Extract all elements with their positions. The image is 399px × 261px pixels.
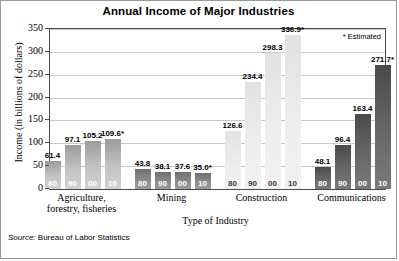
bar-fill — [265, 53, 281, 189]
bar-year-label: 00 — [355, 179, 371, 188]
bar: 97.190 — [65, 145, 81, 189]
bar-year-label: 10 — [105, 179, 121, 188]
y-axis-tick-mark — [45, 165, 49, 166]
x-axis-group-label: Communications — [292, 192, 399, 203]
bar-value-label: 163.4 — [352, 104, 372, 113]
gridline — [50, 29, 385, 30]
bar-value-label: 38.1 — [155, 162, 171, 171]
y-axis-tick-label: 100 — [1, 136, 43, 147]
y-axis-tick-mark — [45, 97, 49, 98]
bar: 126.680 — [225, 131, 241, 189]
bar-year-label: 10 — [375, 179, 391, 188]
bar: 37.600 — [175, 172, 191, 189]
bar-year-label: 10 — [195, 179, 211, 188]
y-axis-tick-mark — [45, 28, 49, 29]
y-axis-tick-mark — [45, 51, 49, 52]
bar: 38.190 — [155, 172, 171, 189]
bar-value-label: 35.0* — [193, 163, 212, 172]
gridline — [50, 98, 385, 99]
y-axis-tick-label: 150 — [1, 113, 43, 124]
group-label-line: Communications — [292, 192, 399, 203]
bar-value-label: 105.2 — [82, 131, 102, 140]
bar-value-label: 96.4 — [335, 135, 351, 144]
bar-year-label: 80 — [315, 179, 331, 188]
bar-fill — [375, 65, 391, 189]
y-axis-tick-label: 50 — [1, 159, 43, 170]
bar-year-label: 00 — [85, 179, 101, 188]
bar-year-label: 90 — [335, 179, 351, 188]
bar-fill — [285, 35, 301, 189]
bar-value-label: 298.3 — [262, 43, 282, 52]
bar: 43.880 — [135, 169, 151, 189]
chart-figure: Annual Income of Major Industries Income… — [0, 0, 397, 259]
y-axis-tick-label: 350 — [1, 22, 43, 33]
y-axis-tick-mark — [45, 188, 49, 189]
bar: 234.490 — [245, 82, 261, 189]
gridline — [50, 120, 385, 121]
bar-value-label: 126.6 — [222, 121, 242, 130]
bar: 48.180 — [315, 167, 331, 189]
y-axis-tick-mark — [45, 142, 49, 143]
plot-area: 61.48097.190105.200109.6*1043.88038.1903… — [49, 28, 386, 190]
bar-fill — [245, 82, 261, 189]
bar-year-label: 80 — [45, 179, 61, 188]
bar: 105.200 — [85, 141, 101, 189]
bar: 109.6*10 — [105, 139, 121, 189]
bar: 35.0*10 — [195, 173, 211, 189]
bar: 163.400 — [355, 114, 371, 189]
bar-value-label: 271.7* — [371, 55, 394, 64]
gridline — [50, 52, 385, 53]
source-text: Bureau of Labor Statistics — [38, 233, 130, 242]
source-label: Source: — [8, 233, 36, 242]
bar-value-label: 37.6 — [175, 162, 191, 171]
group-label-line: forestry, fisheries — [22, 203, 142, 214]
bar: 96.490 — [335, 145, 351, 189]
bar-year-label: 90 — [155, 179, 171, 188]
bar-value-label: 336.9* — [281, 25, 304, 34]
y-axis-tick-mark — [45, 74, 49, 75]
source-note: Source: Bureau of Labor Statistics — [8, 233, 129, 242]
y-axis-tick-label: 250 — [1, 68, 43, 79]
bar-year-label: 00 — [175, 179, 191, 188]
x-axis-title: Type of Industry — [49, 215, 382, 226]
y-axis-tick-label: 200 — [1, 91, 43, 102]
gridline — [50, 75, 385, 76]
bar-year-label: 90 — [245, 179, 261, 188]
bar-fill — [355, 114, 371, 189]
bar-value-label: 234.4 — [242, 72, 262, 81]
y-axis-tick-label: 300 — [1, 45, 43, 56]
bar-year-label: 80 — [135, 179, 151, 188]
bar: 336.9*10 — [285, 35, 301, 189]
bar-value-label: 61.4 — [45, 151, 61, 160]
bar-value-label: 109.6* — [101, 129, 124, 138]
bar-year-label: 00 — [265, 179, 281, 188]
bar: 298.300 — [265, 53, 281, 189]
bar-year-label: 80 — [225, 179, 241, 188]
bar-value-label: 43.8 — [135, 159, 151, 168]
chart-title: Annual Income of Major Industries — [1, 5, 396, 17]
bar-value-label: 97.1 — [65, 135, 81, 144]
estimated-note: * Estimated — [343, 32, 381, 41]
bar: 271.7*10 — [375, 65, 391, 189]
y-axis-tick-mark — [45, 119, 49, 120]
bar-value-label: 48.1 — [315, 157, 331, 166]
bar-year-label: 10 — [285, 179, 301, 188]
bar-year-label: 90 — [65, 179, 81, 188]
